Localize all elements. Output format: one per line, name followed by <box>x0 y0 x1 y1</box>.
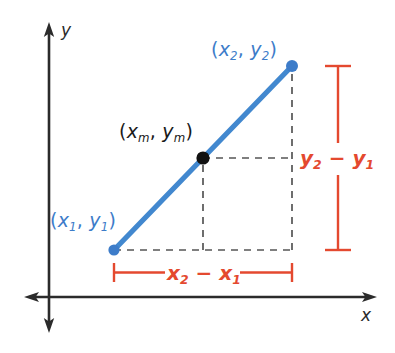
horizontal-measure-b-sub: 1 <box>232 272 241 287</box>
midpoint-label-comma: , <box>150 120 156 142</box>
horizontal-measure-a-sub: 2 <box>180 272 189 287</box>
point-2-label-close: ) <box>269 38 277 60</box>
horizontal-measure-a: x <box>167 261 180 285</box>
point-2-label-comma: , <box>238 38 244 60</box>
vertical-measure-a: y <box>300 146 313 170</box>
x-axis <box>24 292 377 302</box>
vertical-measure-operator: − <box>329 146 346 170</box>
point-2-label-open: ( <box>211 38 219 60</box>
horizontal-measure-operator: − <box>196 261 213 285</box>
point-2-label-y: y <box>250 38 261 60</box>
midpoint-label-x-sub: m <box>138 131 150 145</box>
midpoint-distance-diagram: y x (x2, y2) (xm, ym) (x1, y1) y2 − y1 x… <box>0 0 395 353</box>
y-axis <box>44 22 54 333</box>
vertical-measure-b-sub: 1 <box>365 157 374 172</box>
point-1-label-y: y <box>89 209 100 231</box>
point-1-label-close: ) <box>108 209 116 231</box>
midpoint-dot <box>196 151 209 164</box>
point-1-dot <box>108 244 119 255</box>
midpoint-label-x: x <box>127 120 138 142</box>
point-2-label-x: x <box>219 38 230 60</box>
horizontal-measure-label: x2 − x1 <box>167 263 241 283</box>
vertical-measure-b: y <box>352 146 365 170</box>
midpoint-label-y-sub: m <box>174 131 186 145</box>
point-1-label-open: ( <box>50 209 58 231</box>
midpoint-label-open: ( <box>119 120 127 142</box>
point-1-label-x: x <box>58 209 69 231</box>
y-axis-label: y <box>61 22 71 39</box>
point-2-label: (x2, y2) <box>211 40 277 59</box>
point-2-dot <box>286 60 298 72</box>
point-2-label-x-sub: 2 <box>230 49 238 63</box>
vertical-measure-label: y2 − y1 <box>300 148 374 168</box>
point-1-label-y-sub: 1 <box>101 220 109 234</box>
midpoint-label: (xm, ym) <box>119 122 193 141</box>
point-1-label: (x1, y1) <box>50 211 116 230</box>
vertical-measure-a-sub: 2 <box>313 157 322 172</box>
horizontal-measure-b: x <box>219 261 232 285</box>
point-1-label-x-sub: 1 <box>69 220 77 234</box>
x-axis-label: x <box>361 307 371 324</box>
midpoint-label-y: y <box>162 120 173 142</box>
diagram-canvas <box>0 0 395 353</box>
midpoint-label-close: ) <box>185 120 193 142</box>
point-2-label-y-sub: 2 <box>262 49 270 63</box>
point-1-label-comma: , <box>77 209 83 231</box>
